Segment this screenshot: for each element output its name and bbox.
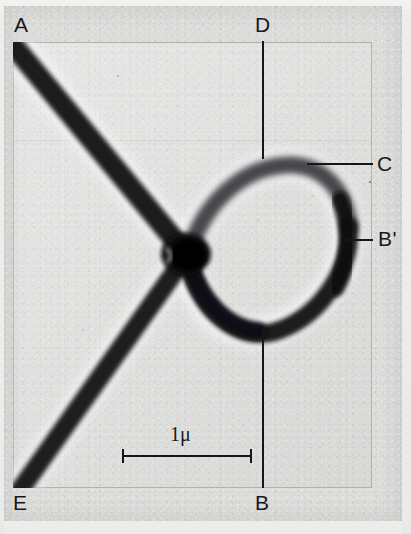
label-b-prime: B' (378, 228, 397, 249)
label-d: D (255, 14, 271, 35)
filament-crossing-core (170, 239, 206, 271)
dust-speck (369, 181, 371, 183)
figure-root: A D C B' E B 1μ (0, 0, 411, 534)
scale-bar (122, 455, 252, 457)
label-b: B (255, 492, 270, 513)
label-c: C (377, 153, 393, 174)
reference-line-b (262, 328, 264, 488)
reference-line-d (262, 41, 264, 159)
label-e: E (13, 492, 28, 513)
leader-line-c (307, 163, 373, 165)
filament-segment-a (12, 44, 188, 256)
scale-bar-label: 1μ (170, 424, 191, 444)
dust-speck (117, 75, 119, 77)
dust-speck (82, 329, 84, 331)
dust-speck (312, 195, 314, 197)
print-bottom-margin (4, 521, 402, 534)
dust-speck (257, 219, 259, 221)
leader-line-b-prime (347, 239, 373, 241)
label-a: A (14, 14, 29, 35)
specimen-image (0, 0, 411, 534)
specimen-filament-group (12, 44, 371, 490)
